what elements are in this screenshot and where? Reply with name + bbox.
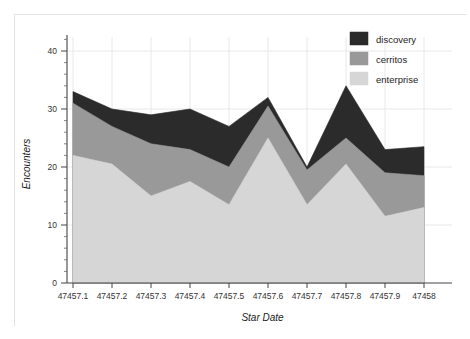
y-tick-label: 40 <box>48 46 58 56</box>
legend-group: discoverycerritosenterprise <box>350 32 418 85</box>
legend-swatch-discovery[interactable] <box>350 32 368 45</box>
x-tick-label: 47457.9 <box>370 291 401 301</box>
x-tick-label: 47457.5 <box>214 291 245 301</box>
x-tick-label: 47457.8 <box>331 291 362 301</box>
x-tick-label: 47457.3 <box>136 291 167 301</box>
y-tick-label: 30 <box>48 104 58 114</box>
x-tick-label: 47458 <box>412 291 436 301</box>
x-tick-labels-group: 47457.147457.247457.347457.447457.547457… <box>58 291 436 301</box>
y-tick-labels-group: 010203040 <box>48 46 58 288</box>
x-tick-label: 47457.4 <box>175 291 206 301</box>
legend-label-enterprise[interactable]: enterprise <box>376 74 418 85</box>
x-axis-group <box>67 283 452 288</box>
chart-figure: 010203040 47457.147457.247457.347457.447… <box>0 0 470 339</box>
y-tick-label: 0 <box>52 278 57 288</box>
x-tick-label: 47457.2 <box>97 291 128 301</box>
stacked-area-chart: 010203040 47457.147457.247457.347457.447… <box>0 0 470 339</box>
legend-swatch-cerritos[interactable] <box>350 52 368 65</box>
legend-label-discovery[interactable]: discovery <box>376 34 416 45</box>
y-tick-label: 10 <box>48 220 58 230</box>
y-axis-title: Encounters <box>21 139 32 190</box>
y-axis-group <box>61 35 67 283</box>
x-axis-title: Star Date <box>241 312 284 323</box>
legend-swatch-enterprise[interactable] <box>350 72 368 85</box>
y-tick-label: 20 <box>48 162 58 172</box>
legend-label-cerritos[interactable]: cerritos <box>376 54 407 65</box>
area-series-group <box>73 86 424 283</box>
x-tick-label: 47457.6 <box>253 291 284 301</box>
x-tick-label: 47457.1 <box>58 291 89 301</box>
x-tick-label: 47457.7 <box>292 291 323 301</box>
